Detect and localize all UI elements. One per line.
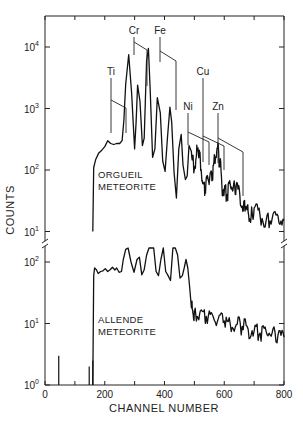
- x-tick-label: 400: [156, 389, 173, 400]
- xrf-spectrum-chart: 0200400600800 101102103104100101102 TiCr…: [0, 0, 303, 422]
- element-label-cr: Cr: [129, 25, 140, 36]
- orgueil-label-line2: METEORITE: [98, 181, 156, 192]
- y-tick-label: 101: [24, 225, 39, 238]
- plot-frame: [42, 16, 287, 385]
- x-tick-label: 200: [96, 389, 113, 400]
- orgueil-label-line1: ORGUEIL: [98, 169, 143, 180]
- y-axis-title: COUNTS: [4, 185, 16, 234]
- allende-label-line1: ALLENDE: [98, 314, 143, 325]
- element-label-ti: Ti: [107, 66, 115, 77]
- spectra: [59, 48, 284, 385]
- y-tick-label: 102: [24, 255, 39, 268]
- x-axis: 0200400600800: [42, 16, 293, 400]
- y-tick-label: 100: [24, 378, 39, 391]
- element-label-cu: Cu: [197, 66, 210, 77]
- x-tick-label: 0: [42, 389, 48, 400]
- y-tick-label: 103: [24, 102, 39, 115]
- allende-label-line2: METEORITE: [98, 326, 156, 337]
- x-tick-label: 800: [276, 389, 293, 400]
- x-axis-title: CHANNEL NUMBER: [109, 402, 219, 414]
- x-tick-label: 600: [216, 389, 233, 400]
- y-tick-label: 102: [24, 163, 39, 176]
- element-label-fe: Fe: [154, 25, 166, 36]
- element-label-ni: Ni: [183, 101, 192, 112]
- y-axis: 101102103104100101102: [24, 40, 284, 391]
- y-tick-label: 101: [24, 317, 39, 330]
- element-label-zn: Zn: [212, 101, 224, 112]
- y-tick-label: 104: [24, 40, 39, 53]
